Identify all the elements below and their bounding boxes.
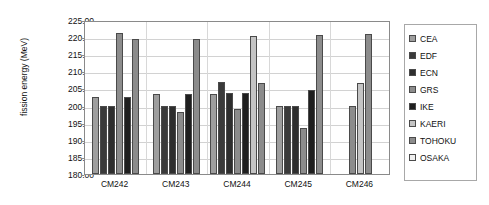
bar xyxy=(132,39,139,174)
y-tick-mark xyxy=(81,175,84,176)
x-tick-label: CM242 xyxy=(84,179,146,189)
bar xyxy=(226,93,233,174)
bar xyxy=(276,106,283,174)
bar xyxy=(161,106,168,174)
legend-swatch-icon xyxy=(409,103,416,110)
bar xyxy=(92,97,99,174)
bar xyxy=(124,97,131,174)
legend-swatch-icon xyxy=(409,86,416,93)
legend-item-label: EDF xyxy=(420,51,437,61)
x-tick-label: CM244 xyxy=(206,179,268,189)
bar xyxy=(234,109,241,174)
bar xyxy=(153,94,160,174)
legend: CEAEDFECNGRSIKEKAERITOHOKUOSAKA xyxy=(404,24,477,181)
legend-item-kaeri[interactable]: KAERI xyxy=(409,115,476,132)
bar xyxy=(242,93,249,174)
x-tick-label: CM243 xyxy=(145,179,207,189)
bar-group xyxy=(207,22,268,174)
bar xyxy=(357,83,364,174)
legend-item-osaka[interactable]: OSAKA xyxy=(409,149,476,166)
bar xyxy=(365,34,372,174)
bar xyxy=(218,82,225,174)
legend-item-ike[interactable]: IKE xyxy=(409,98,476,115)
legend-swatch-icon xyxy=(409,154,416,161)
bar xyxy=(349,106,356,174)
bar xyxy=(177,112,184,174)
bar-group xyxy=(85,22,146,174)
bar xyxy=(300,128,307,174)
bar-group xyxy=(269,22,330,174)
bar xyxy=(210,94,217,174)
bar xyxy=(284,106,291,174)
bar xyxy=(250,36,257,174)
bar xyxy=(185,94,192,174)
legend-item-edf[interactable]: EDF xyxy=(409,47,476,64)
bar xyxy=(258,83,265,174)
legend-item-label: ECN xyxy=(420,68,438,78)
plot-area xyxy=(84,21,390,175)
legend-item-tohoku[interactable]: TOHOKU xyxy=(409,132,476,149)
y-axis-title: fission energy (MeV) xyxy=(19,17,29,137)
legend-swatch-icon xyxy=(409,69,416,76)
x-tick-label: CM245 xyxy=(267,179,329,189)
bar-group xyxy=(146,22,207,174)
bar xyxy=(193,39,200,174)
legend-item-label: OSAKA xyxy=(420,153,449,163)
bar-chart-figure: fission energy (MeV) 225.00220.00215.002… xyxy=(0,0,489,205)
bar-group xyxy=(330,22,391,174)
legend-swatch-icon xyxy=(409,52,416,59)
legend-item-cea[interactable]: CEA xyxy=(409,30,476,47)
legend-item-grs[interactable]: GRS xyxy=(409,81,476,98)
legend-item-ecn[interactable]: ECN xyxy=(409,64,476,81)
legend-swatch-icon xyxy=(409,120,416,127)
legend-swatch-icon xyxy=(409,35,416,42)
x-tick-label: CM246 xyxy=(328,179,390,189)
bar xyxy=(292,106,299,174)
legend-item-label: CEA xyxy=(420,34,437,44)
legend-item-label: GRS xyxy=(420,85,438,95)
bar xyxy=(108,106,115,174)
legend-swatch-icon xyxy=(409,137,416,144)
legend-item-label: TOHOKU xyxy=(420,136,456,146)
legend-item-label: IKE xyxy=(420,102,434,112)
bar xyxy=(116,33,123,174)
bar xyxy=(100,106,107,174)
bar xyxy=(169,106,176,174)
bar xyxy=(308,90,315,174)
legend-item-label: KAERI xyxy=(420,119,446,129)
bar xyxy=(316,35,323,174)
